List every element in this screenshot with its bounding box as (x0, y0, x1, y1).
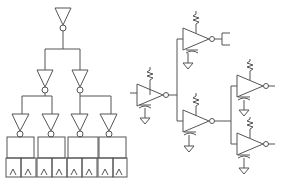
leaf-buffers (12, 114, 117, 137)
right-rc-tree (130, 11, 275, 174)
register-cells (6, 137, 127, 177)
buffer-icon (55, 8, 71, 25)
left-buffer-tree (6, 8, 127, 177)
circuit-diagram (0, 0, 283, 189)
output-port (222, 33, 230, 45)
